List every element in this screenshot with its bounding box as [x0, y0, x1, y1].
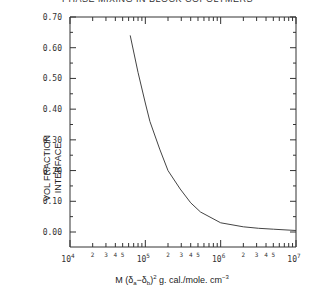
- y-tick-label: 0.00: [43, 228, 62, 237]
- x-label-text: −δ: [137, 275, 147, 285]
- x-tick-label: 105: [137, 252, 151, 264]
- series-line: [130, 35, 296, 230]
- x-tick-exponent: 4: [71, 252, 75, 259]
- x-tick-label: 106: [212, 252, 226, 264]
- x-label-superscript: −3: [222, 274, 230, 280]
- y-tick-label: 0.40: [43, 105, 62, 114]
- x-tick-exponent: 7: [297, 252, 301, 259]
- x-minor-tick-label: 2: [242, 251, 246, 258]
- x-minor-tick-label: 4: [114, 251, 118, 258]
- y-axis-ticks: 0.000.100.200.300.400.500.600.70: [43, 13, 296, 237]
- y-tick-label: 0.50: [43, 74, 62, 83]
- x-label-text: g. cal./mole. cm: [156, 275, 222, 285]
- x-minor-tick-label: 5: [272, 251, 276, 258]
- x-minor-tick-label: 3: [104, 251, 108, 258]
- y-axis-label-line-2: INTERFACE: [53, 143, 63, 194]
- x-minor-tick-label: 4: [189, 251, 193, 258]
- chart-svg: 0.000.100.200.300.400.500.600.70 1042345…: [0, 0, 315, 296]
- x-tick-label: 104: [61, 252, 75, 264]
- x-minor-tick-label: 3: [255, 251, 259, 258]
- y-tick-label: 0.70: [43, 13, 62, 22]
- x-tick-label: 107: [287, 252, 301, 264]
- x-axis-ticks: 104234510523451062345107: [61, 17, 301, 264]
- x-minor-tick-label: 2: [166, 251, 170, 258]
- x-label-text: M (δ: [115, 275, 133, 285]
- x-tick-exponent: 6: [222, 252, 226, 259]
- series-layer: [130, 35, 296, 230]
- x-axis-label: M (δa−δb)2 g. cal./mole. cm−3: [115, 274, 229, 286]
- x-minor-tick-label: 3: [179, 251, 183, 258]
- y-tick-label: 0.60: [43, 44, 62, 53]
- x-minor-tick-label: 4: [264, 251, 268, 258]
- plot-frame: [70, 17, 296, 247]
- y-axis-label-line-1: VOL FRACTION: [42, 135, 52, 201]
- x-minor-tick-label: 2: [91, 251, 95, 258]
- x-minor-tick-label: 5: [121, 251, 125, 258]
- x-tick-exponent: 5: [146, 252, 150, 259]
- x-minor-tick-label: 5: [196, 251, 200, 258]
